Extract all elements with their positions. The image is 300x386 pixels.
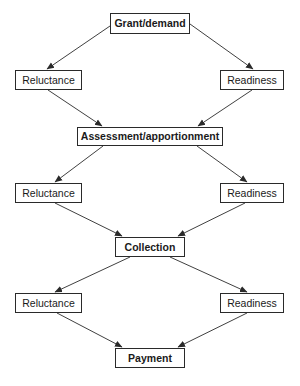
arrow-readiness1-to-assessment	[198, 90, 252, 126]
arrow-reluctance2-to-collection	[55, 203, 122, 236]
node-readiness-2: Readiness	[220, 183, 284, 203]
node-label: Assessment/apportionment	[81, 131, 219, 142]
arrow-readiness2-to-collection	[178, 203, 245, 236]
arrow-reluctance1-to-assessment	[48, 90, 102, 126]
arrow-grant-to-readiness1	[190, 24, 253, 69]
node-payment: Payment	[115, 348, 185, 368]
arrow-assessment-to-reluctance2	[55, 146, 103, 182]
node-collection: Collection	[115, 237, 185, 257]
node-label: Grant/demand	[114, 18, 185, 29]
node-label: Readiness	[227, 298, 277, 309]
node-readiness-3: Readiness	[220, 293, 284, 313]
arrow-collection-to-reluctance3	[55, 257, 130, 292]
node-label: Reluctance	[22, 298, 75, 309]
arrow-grant-to-reluctance1	[47, 26, 110, 69]
node-label: Reluctance	[22, 75, 75, 86]
node-label: Collection	[125, 242, 176, 253]
node-reluctance-2: Reluctance	[15, 183, 82, 203]
node-readiness-1: Readiness	[220, 70, 284, 90]
arrow-assessment-to-readiness2	[197, 146, 247, 182]
node-label: Payment	[128, 353, 172, 364]
arrow-collection-to-readiness3	[170, 257, 247, 292]
node-assessment-apportionment: Assessment/apportionment	[77, 127, 223, 146]
node-label: Readiness	[227, 188, 277, 199]
node-label: Readiness	[227, 75, 277, 86]
arrow-reluctance3-to-payment	[57, 313, 122, 347]
node-reluctance-1: Reluctance	[15, 70, 82, 90]
arrow-readiness3-to-payment	[178, 313, 247, 347]
node-label: Reluctance	[22, 188, 75, 199]
node-grant-demand: Grant/demand	[110, 13, 190, 34]
node-reluctance-3: Reluctance	[15, 293, 82, 313]
flow-diagram: Grant/demand Reluctance Readiness Assess…	[0, 0, 300, 386]
